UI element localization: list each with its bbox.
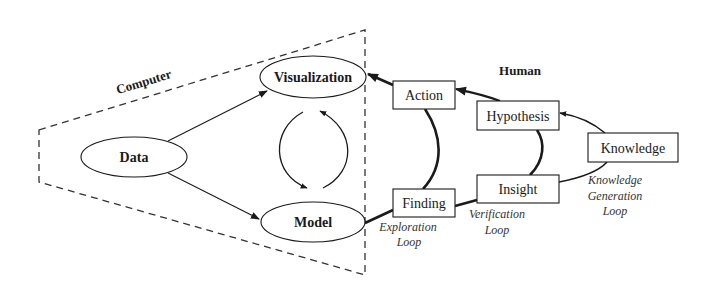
- computer-group-label: Computer: [114, 66, 173, 97]
- node-data-label: Data: [120, 150, 149, 165]
- node-hypothesis-label: Hypothesis: [487, 109, 550, 124]
- node-finding: Finding: [393, 189, 455, 217]
- svg-text:Knowledge: Knowledge: [587, 173, 643, 187]
- edge-hypothesis-to-action: [456, 89, 500, 101]
- edge-insight-to-hypothesis: [530, 130, 542, 175]
- node-action-label: Action: [405, 88, 443, 103]
- edge-data-to-model: [168, 173, 259, 219]
- edge-knowledge-to-hypothesis: [560, 113, 605, 133]
- human-group-label: Human: [499, 63, 542, 78]
- exploration-loop-label: Exploration Loop: [378, 220, 436, 249]
- node-action: Action: [393, 81, 455, 109]
- node-hypothesis: Hypothesis: [477, 101, 559, 130]
- edge-finding-to-action: [423, 109, 439, 189]
- node-visualization-label: Visualization: [274, 70, 352, 85]
- edge-action-to-visualization: [368, 74, 393, 85]
- node-data: Data: [81, 137, 187, 177]
- svg-text:Loop: Loop: [484, 223, 510, 237]
- verification-loop-label: Verification Loop: [469, 207, 525, 237]
- svg-text:Verification: Verification: [469, 207, 525, 221]
- cycle-arrow-right: [320, 111, 348, 188]
- node-model-label: Model: [294, 215, 332, 230]
- edge-data-to-visualization: [168, 91, 267, 141]
- cycle-arrow-left: [279, 112, 307, 188]
- knowledge-generation-loop-label: Knowledge Generation Loop: [587, 173, 643, 218]
- vis-analytics-diagram: Computer Human Data Visualization Model …: [0, 0, 714, 293]
- svg-text:Loop: Loop: [602, 204, 628, 218]
- node-insight-label: Insight: [499, 182, 538, 197]
- node-visualization: Visualization: [260, 56, 366, 98]
- node-finding-label: Finding: [402, 196, 446, 211]
- node-knowledge-label: Knowledge: [601, 141, 666, 156]
- edge-finding-to-insight: [455, 200, 477, 206]
- node-knowledge: Knowledge: [588, 133, 678, 162]
- node-insight: Insight: [477, 175, 559, 203]
- node-model: Model: [261, 202, 365, 242]
- svg-text:Generation: Generation: [588, 189, 643, 203]
- svg-text:Exploration: Exploration: [378, 220, 436, 234]
- svg-text:Loop: Loop: [396, 235, 422, 249]
